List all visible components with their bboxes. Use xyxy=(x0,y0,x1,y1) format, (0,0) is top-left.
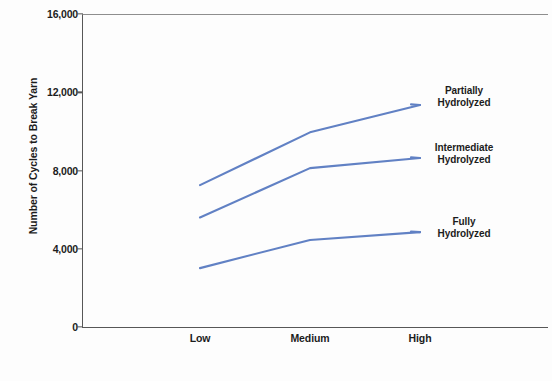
y-tick-label: 0 xyxy=(0,321,78,333)
y-tick-label: 8,000 xyxy=(0,165,78,177)
y-tick-label: 16,000 xyxy=(0,8,78,20)
series-label-line2: Hydrolyzed xyxy=(399,97,529,109)
series-label-intermediate-hydrolyzed: Intermediate Hydrolyzed xyxy=(399,142,529,166)
y-tick-label: 12,000 xyxy=(0,86,78,98)
x-tick-label: High xyxy=(360,332,480,344)
y-tick-label: 4,000 xyxy=(0,243,78,255)
series-label-line2: Hydrolyzed xyxy=(399,154,529,166)
y-axis-title: Number of Cycles to Break Yarn xyxy=(27,46,39,266)
series-label-partially-hydrolyzed: Partially Hydrolyzed xyxy=(399,85,529,109)
series-label-line1: Partially xyxy=(445,85,483,96)
x-tick-label: Low xyxy=(140,332,260,344)
interaction-plot-figure: Number of Cycles to Break Yarn 0 4,000 8… xyxy=(0,0,552,381)
series-label-line1: Fully xyxy=(453,216,476,227)
series-label-line1: Intermediate xyxy=(435,142,493,153)
series-label-fully-hydrolyzed: Fully Hydrolyzed xyxy=(399,216,529,240)
series-label-line2: Hydrolyzed xyxy=(399,228,529,240)
x-tick-label: Medium xyxy=(250,332,370,344)
plot-area-frame xyxy=(82,14,548,328)
